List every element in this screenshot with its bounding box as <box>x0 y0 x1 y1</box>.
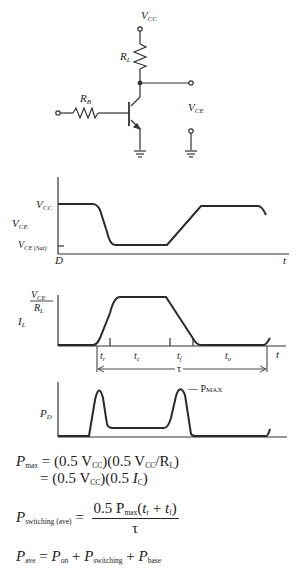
il-top-num: VCE <box>31 289 45 301</box>
equation-pmax-line1: Pmax = (0.5 VCC)(0.5 VCC/RL) <box>16 453 179 470</box>
vce-label: VCE <box>188 101 204 115</box>
interval-to: to <box>225 350 232 362</box>
base-resistor-icon <box>73 108 98 118</box>
vcc-label: VCC <box>141 9 157 23</box>
vce-y-label: VCE <box>12 217 28 231</box>
rl-label: RL <box>119 50 131 64</box>
pd-x-label: t <box>284 438 288 440</box>
equation-pswitching: Pswitching (ave) = 0.5 Pmax(tr + tf)τ <box>16 500 179 537</box>
period-arrow <box>98 366 266 372</box>
vcc-terminal <box>138 27 142 31</box>
il-x-label: t <box>276 348 280 360</box>
vce-x-label: t <box>283 254 287 266</box>
il-top-den: RL <box>33 302 44 314</box>
pswitching-fraction: 0.5 Pmax(tr + tf)τ <box>92 500 179 537</box>
vcc-tick-label: VCC <box>36 198 52 212</box>
pd-waveform <box>58 389 270 436</box>
il-waveform <box>58 297 270 345</box>
pd-y-label: PD <box>39 407 52 421</box>
transistor-switching-figure: VCC RL RB VCE VCC VCE VCE (Sat) D t <box>0 0 300 440</box>
vce-waveform <box>58 204 266 245</box>
equation-pave: Pave = Pon + Pswitching + Pbase <box>16 548 161 565</box>
pmax-annotation: — PMAX <box>187 383 222 394</box>
vce-output-terminal <box>189 81 193 85</box>
circuit-schematic <box>56 27 197 157</box>
vce-ground-terminal <box>189 129 193 133</box>
ground-icon <box>185 151 197 157</box>
input-terminal <box>56 111 60 115</box>
vce-sat-tick-label: VCE (Sat) <box>18 239 47 252</box>
load-resistor-icon <box>134 44 146 69</box>
interval-tf: tf <box>177 350 183 362</box>
origin-label: D <box>54 254 63 266</box>
il-y-label: IL <box>17 315 26 329</box>
interval-tc: tc <box>134 350 140 362</box>
period-label: τ <box>177 363 181 374</box>
emitter-arrow-icon <box>134 124 140 129</box>
interval-tr: tr <box>100 350 106 362</box>
il-waveform-chart: τ VCE RL IL tr tc tf to t <box>17 289 286 374</box>
ground-icon <box>134 151 146 157</box>
vce-waveform-chart: VCC VCE VCE (Sat) D t <box>12 177 289 266</box>
rb-label: RB <box>79 92 92 106</box>
equation-pmax-line2: = (0.5 VCC)(0.5 IC) <box>40 470 148 487</box>
pd-waveform-chart: — PMAX PD t <box>39 382 288 440</box>
